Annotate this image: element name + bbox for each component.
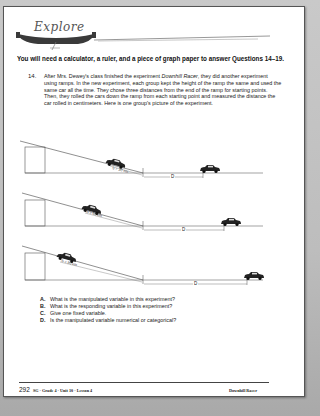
question-text: After Mrs. Dewey's class finished the ex…	[44, 73, 282, 107]
sub-question-b: B. What is the responding variable in th…	[40, 303, 280, 310]
footer-page-info: 292 SG · Grade 4 · Unit 10 · Lesson 4	[19, 386, 92, 393]
footer-unit-info: SG · Grade 4 · Unit 10 · Lesson 4	[33, 388, 92, 393]
explore-title: Explore	[34, 20, 85, 34]
ramp-2-d-label: D	[181, 227, 186, 232]
explore-banner: Explore	[8, 20, 270, 50]
sub-question-d: D. Is the manipulated variable numerical…	[40, 317, 280, 324]
question-number: 14.	[28, 73, 36, 79]
workbook-page	[3, 6, 305, 397]
ramp-1-d-label: D	[170, 174, 175, 179]
footer-divider	[19, 382, 269, 383]
sub-question-c: C. Give one fixed variable.	[40, 310, 280, 317]
experiment-name: Downhill Racer	[162, 73, 198, 79]
sub-question-a: A. What is the manipulated variable in t…	[40, 296, 280, 303]
ramp-3-d-label: D	[193, 281, 198, 286]
sub-question-list: A. What is the manipulated variable in t…	[40, 296, 280, 324]
page-number: 292	[19, 386, 30, 393]
footer-lesson-title: Downhill Racer	[229, 388, 257, 393]
instructions: You will need a calculator, a ruler, and…	[17, 55, 287, 63]
